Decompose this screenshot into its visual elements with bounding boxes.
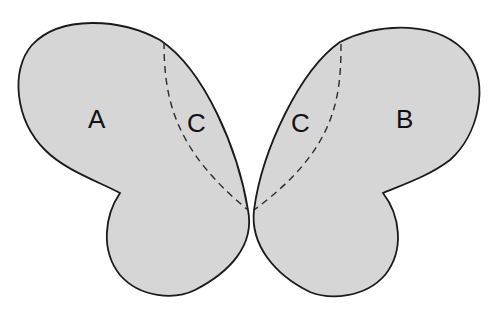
right-wing-outline	[254, 28, 480, 297]
region-label-b: B	[396, 104, 413, 134]
region-label-a: A	[88, 104, 106, 134]
left-wing: A C	[18, 23, 249, 296]
butterfly-diagram: A C C B	[0, 0, 502, 315]
right-wing: C B	[254, 28, 480, 297]
region-label-c-left: C	[187, 108, 206, 138]
region-label-c-right: C	[291, 108, 310, 138]
left-wing-outline	[18, 23, 249, 296]
